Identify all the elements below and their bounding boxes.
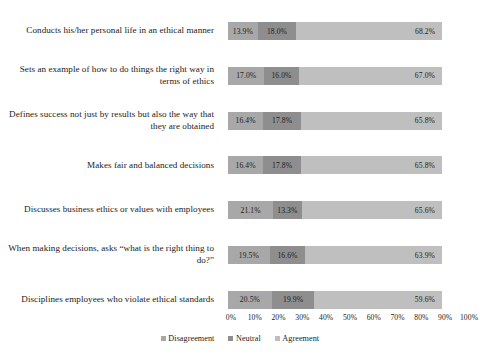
bar-value-label: 17.0% xyxy=(236,71,256,80)
x-axis-tick-label: 30% xyxy=(295,313,309,322)
bar-value-label: 18.0% xyxy=(267,27,287,36)
x-axis-tick-label: 40% xyxy=(319,313,333,322)
x-axis-tick-label: 60% xyxy=(367,313,381,322)
bar-segment-agreement: 59.6% xyxy=(314,291,442,309)
bar-segment-disagreement: 13.9% xyxy=(228,22,258,40)
bar-value-label: 67.0% xyxy=(415,71,435,80)
stacked-bar: 19.5%16.6%63.9% xyxy=(228,246,442,264)
legend-label: Neutral xyxy=(236,334,261,343)
chart-row: Discusses business ethics or values with… xyxy=(0,190,480,230)
x-axis-tick-label: 100% xyxy=(460,313,478,322)
bar-segment-disagreement: 19.5% xyxy=(228,246,270,264)
stacked-bar: 21.1%13.3%65.6% xyxy=(228,201,442,219)
bar-segment-disagreement: 17.0% xyxy=(228,67,264,85)
legend-label: Disagreement xyxy=(168,334,214,343)
bar-segment-agreement: 63.9% xyxy=(305,246,442,264)
bar-segment-neutral: 19.9% xyxy=(272,291,315,309)
x-axis-tick-label: 20% xyxy=(271,313,285,322)
bar-value-label: 17.8% xyxy=(272,116,292,125)
bar-segment-neutral: 16.6% xyxy=(270,246,306,264)
bar-segment-agreement: 65.8% xyxy=(301,112,442,130)
bar-value-label: 16.0% xyxy=(271,71,291,80)
category-label: Makes fair and balanced decisions xyxy=(0,160,222,172)
legend-label: Agreement xyxy=(282,334,319,343)
stacked-bar: 17.0%16.0%67.0% xyxy=(228,67,442,85)
chart-plot-area: Conducts his/her personal life in an eth… xyxy=(0,0,480,312)
bar-segment-agreement: 67.0% xyxy=(299,67,442,85)
x-axis-tick-label: 50% xyxy=(343,313,357,322)
legend-swatch-icon xyxy=(161,336,166,341)
category-label: Conducts his/her personal life in an eth… xyxy=(0,25,222,37)
chart-row: Sets an example of how to do things the … xyxy=(0,56,480,96)
legend-item-neutral[interactable]: Neutral xyxy=(228,334,260,343)
bar-segment-neutral: 17.8% xyxy=(263,112,301,130)
bar-value-label: 21.1% xyxy=(241,206,261,215)
bar-segment-disagreement: 20.5% xyxy=(228,291,272,309)
bar-value-label: 16.4% xyxy=(235,161,255,170)
chart-row: When making decisions, asks “what is the… xyxy=(0,235,480,275)
stacked-bar: 20.5%19.9%59.6% xyxy=(228,291,442,309)
bar-segment-neutral: 18.0% xyxy=(258,22,297,40)
category-label: Discusses business ethics or values with… xyxy=(0,204,222,216)
chart-legend: DisagreementNeutralAgreement xyxy=(0,334,480,343)
stacked-bar: 16.4%17.8%65.8% xyxy=(228,112,442,130)
bar-value-label: 16.6% xyxy=(277,251,297,260)
bar-value-label: 16.4% xyxy=(235,116,255,125)
legend-item-agreement[interactable]: Agreement xyxy=(275,334,319,343)
category-label: Defines success not just by results but … xyxy=(0,109,222,132)
category-label: When making decisions, asks “what is the… xyxy=(0,243,222,266)
bar-value-label: 68.2% xyxy=(415,27,435,36)
bar-value-label: 63.9% xyxy=(415,251,435,260)
x-axis-tick-label: 0% xyxy=(226,313,236,322)
category-label: Sets an example of how to do things the … xyxy=(0,64,222,87)
legend-swatch-icon xyxy=(275,336,280,341)
bar-segment-neutral: 17.8% xyxy=(263,156,301,174)
x-axis-tick-label: 70% xyxy=(390,313,404,322)
category-label: Disciplines employees who violate ethica… xyxy=(0,294,222,306)
stacked-bar-chart: Conducts his/her personal life in an eth… xyxy=(0,0,480,355)
x-axis-tick-label: 80% xyxy=(414,313,428,322)
bar-segment-agreement: 65.6% xyxy=(302,201,442,219)
bar-segment-neutral: 13.3% xyxy=(273,201,301,219)
stacked-bar: 16.4%17.8%65.8% xyxy=(228,156,442,174)
legend-swatch-icon xyxy=(228,336,233,341)
x-axis-tick-label: 90% xyxy=(438,313,452,322)
legend-item-disagreement[interactable]: Disagreement xyxy=(161,334,215,343)
bar-value-label: 20.5% xyxy=(240,295,260,304)
bar-value-label: 65.6% xyxy=(415,206,435,215)
chart-row: Conducts his/her personal life in an eth… xyxy=(0,11,480,51)
bar-segment-neutral: 16.0% xyxy=(264,67,298,85)
chart-row: Defines success not just by results but … xyxy=(0,101,480,141)
x-axis-tick-label: 10% xyxy=(248,313,262,322)
bar-segment-disagreement: 16.4% xyxy=(228,156,263,174)
x-axis: 0%10%20%30%40%50%60%70%80%90%100% xyxy=(228,313,472,327)
bar-value-label: 65.8% xyxy=(415,161,435,170)
bar-value-label: 65.8% xyxy=(415,116,435,125)
bar-value-label: 17.8% xyxy=(272,161,292,170)
chart-row: Makes fair and balanced decisions16.4%17… xyxy=(0,145,480,185)
bar-value-label: 13.9% xyxy=(233,27,253,36)
bar-value-label: 13.3% xyxy=(277,206,297,215)
bar-segment-agreement: 68.2% xyxy=(296,22,442,40)
bar-segment-disagreement: 16.4% xyxy=(228,112,263,130)
bar-segment-agreement: 65.8% xyxy=(301,156,442,174)
bar-value-label: 19.5% xyxy=(239,251,259,260)
bar-segment-disagreement: 21.1% xyxy=(228,201,273,219)
bar-value-label: 59.6% xyxy=(415,295,435,304)
bar-value-label: 19.9% xyxy=(283,295,303,304)
stacked-bar: 13.9%18.0%68.2% xyxy=(228,22,442,40)
